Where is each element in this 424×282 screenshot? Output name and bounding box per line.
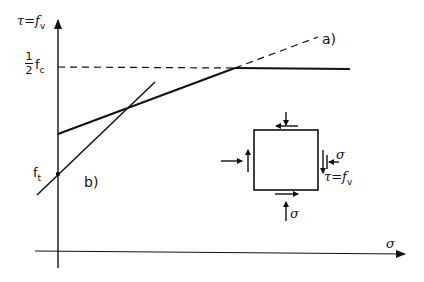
fc-sub: c	[40, 65, 45, 75]
plateau-line	[235, 68, 350, 69]
half-fc-label: fc	[35, 58, 45, 71]
ft-sub: t	[38, 173, 42, 183]
criterion-a-label: a)	[322, 32, 336, 46]
x-axis	[35, 251, 405, 254]
diagram-canvas: τ=fv 1 2 fc ft a) b) σ τ=fv σ σ	[0, 0, 424, 282]
ft-label: ft	[33, 166, 41, 179]
diagram-svg	[0, 0, 424, 282]
tau-label-text: τ=f	[324, 169, 347, 184]
criterion-a-dashed	[235, 37, 318, 68]
fraction-denominator: 2	[26, 65, 33, 76]
x-axis-label: σ	[386, 237, 395, 250]
right-sigma-label: σ	[336, 148, 345, 161]
bottom-sigma-label: σ	[290, 207, 299, 220]
tau-label-sub: v	[347, 177, 352, 187]
stress-element	[254, 130, 318, 190]
half-fc-dashed-line	[58, 67, 235, 68]
y-axis-label-text: τ=f	[17, 13, 40, 28]
y-axis-label: τ=fv	[17, 14, 45, 27]
fraction-numerator: 1	[26, 51, 33, 62]
fc-text: f	[35, 57, 40, 72]
y-axis-label-sub: v	[40, 21, 45, 31]
criterion-b-label: b)	[84, 175, 98, 189]
ft-point	[56, 172, 60, 176]
criterion-a-solid	[58, 68, 235, 134]
tau-label: τ=fv	[324, 170, 352, 183]
ft-text: f	[33, 165, 38, 180]
half-fraction: 1 2	[25, 51, 33, 76]
